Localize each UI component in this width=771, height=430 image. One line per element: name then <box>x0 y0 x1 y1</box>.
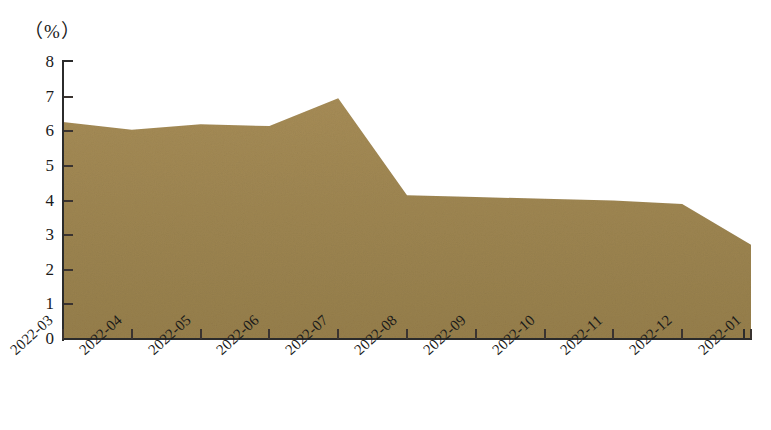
y-axis-tick-label-text: 2 <box>24 261 54 278</box>
y-axis-tick <box>64 303 73 305</box>
y-axis-tick <box>64 96 73 98</box>
y-axis-tick-label: 4 <box>22 192 54 209</box>
y-axis-tick-label-text: 8 <box>24 53 54 70</box>
area-chart: （%） 012345678 2022-032022-042022-052022- <box>0 0 771 430</box>
y-axis-tick-label: 6 <box>22 122 54 139</box>
x-axis-tick <box>544 329 546 339</box>
y-axis-tick-label: 1 <box>22 295 54 312</box>
y-axis-tick-label: 7 <box>22 88 54 105</box>
area-series-fill <box>63 98 751 339</box>
x-axis-tick <box>200 329 202 339</box>
y-axis-tick-label: 8 <box>22 53 54 70</box>
x-axis-tick <box>406 329 408 339</box>
x-axis-tick <box>750 329 752 339</box>
y-axis-top-cap <box>62 60 73 62</box>
x-axis-tick <box>268 329 270 339</box>
y-axis-tick-label: 3 <box>22 226 54 243</box>
x-axis-tick <box>62 329 64 339</box>
y-axis-tick <box>64 269 73 271</box>
y-axis-tick-label-text: 7 <box>24 88 54 105</box>
y-axis-tick-label-text: 3 <box>24 226 54 243</box>
chart-plot-surface <box>0 0 771 430</box>
x-axis-right-cap <box>743 329 745 340</box>
y-axis-tick-label-text: 4 <box>24 192 54 209</box>
x-axis-tick <box>131 329 133 339</box>
y-axis-tick-label-text: 6 <box>24 122 54 139</box>
y-axis-tick <box>64 234 73 236</box>
y-axis-tick-label-text: 1 <box>24 295 54 312</box>
y-axis-tick <box>64 130 73 132</box>
x-axis-tick <box>337 329 339 339</box>
x-axis-tick <box>475 329 477 339</box>
y-axis-tick-label: 2 <box>22 261 54 278</box>
y-axis-tick <box>64 200 73 202</box>
x-axis-tick <box>612 329 614 339</box>
y-axis-tick-label: 5 <box>22 157 54 174</box>
x-axis-tick <box>681 329 683 339</box>
y-axis-tick-label-text: 5 <box>24 157 54 174</box>
y-axis-tick <box>64 165 73 167</box>
